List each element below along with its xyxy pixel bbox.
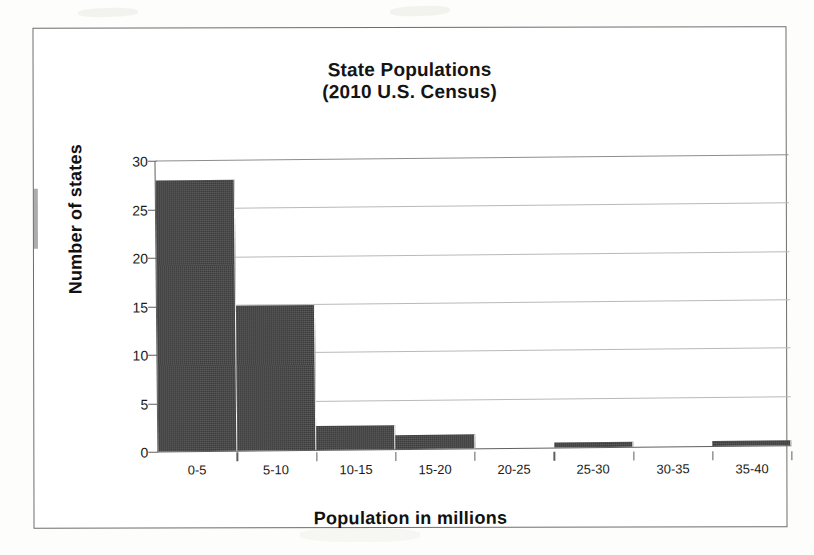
chart-title-line1: State Populations xyxy=(328,59,492,80)
x-tick-mark-5-10 xyxy=(316,452,317,461)
bar-20-25[interactable] xyxy=(475,448,554,449)
x-axis-tick-labels: 0-55-1010-1515-2020-2525-3030-3535-40 xyxy=(157,461,791,477)
x-tick-mark-30-35 xyxy=(712,451,713,460)
x-tick-label-0-5: 0-5 xyxy=(157,462,236,478)
scan-artifact-top-right xyxy=(390,5,450,17)
bar-slot xyxy=(709,155,791,446)
x-tick-label-35-40: 35-40 xyxy=(712,461,791,477)
x-tick-mark-15-20 xyxy=(474,452,475,461)
x-tick-label-20-25: 20-25 xyxy=(474,461,553,477)
bar-0-5[interactable] xyxy=(156,180,238,451)
x-tick-label-5-10: 5-10 xyxy=(237,462,316,478)
bar-slot xyxy=(314,159,396,450)
chart-title-line2: (2010 U.S. Census) xyxy=(34,81,786,105)
bar-slot xyxy=(235,160,317,451)
x-tick-label-15-20: 15-20 xyxy=(395,462,474,478)
x-tick-mark-25-30 xyxy=(633,452,634,461)
bar-25-30[interactable] xyxy=(554,442,633,448)
bar-5-10[interactable] xyxy=(236,305,317,451)
bar-15-20[interactable] xyxy=(396,434,475,449)
x-tick-label-10-15: 10-15 xyxy=(316,462,395,478)
x-tick-mark-0-5 xyxy=(237,452,238,461)
bar-slot xyxy=(393,158,475,449)
y-axis-tick-marks xyxy=(34,161,175,452)
bar-slot xyxy=(630,156,712,447)
y-tick-mark-0 xyxy=(148,452,157,453)
scan-artifact-top-left xyxy=(78,7,138,18)
scan-artifact-bottom xyxy=(300,528,420,542)
x-tick-label-30-35: 30-35 xyxy=(633,461,712,477)
bar-slot xyxy=(472,158,554,449)
bar-10-15[interactable] xyxy=(316,425,395,450)
bar-30-35[interactable] xyxy=(633,446,712,447)
bar-slot xyxy=(155,161,237,452)
chart-frame: State Populations (2010 U.S. Census) Num… xyxy=(32,26,787,529)
x-tick-mark-20-25 xyxy=(554,452,555,461)
x-axis-label: Population in millions xyxy=(34,507,786,530)
bar-35-40[interactable] xyxy=(712,440,791,446)
chart-title: State Populations (2010 U.S. Census) xyxy=(34,58,786,104)
x-tick-label-25-30: 25-30 xyxy=(554,461,633,477)
bar-series xyxy=(155,155,791,451)
x-tick-mark-10-15 xyxy=(395,452,396,461)
x-tick-mark-35-40 xyxy=(791,451,792,460)
bar-slot xyxy=(551,157,633,448)
plot-area xyxy=(154,155,791,452)
plot-wrapper xyxy=(157,160,792,452)
